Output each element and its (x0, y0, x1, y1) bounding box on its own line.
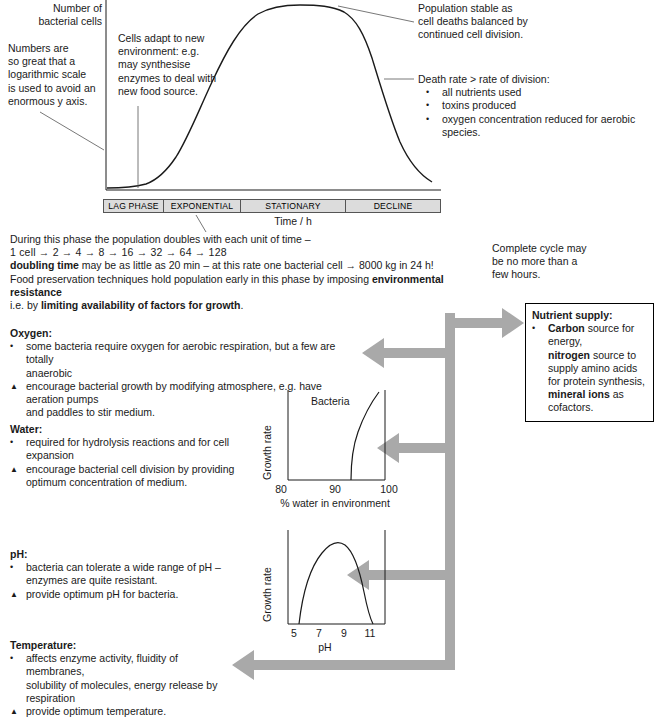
factor-ph: pH: • bacteria can tolerate a wide range… (10, 548, 235, 601)
nutrient-line-7: cofactors. (548, 401, 647, 414)
oxygen-heading: Oxygen: (10, 327, 360, 340)
water-chart-x-axis-label: % water in environment (265, 497, 405, 509)
oxygen-bullet-line-1: some bacteria require oxygen for aerobic… (26, 340, 360, 366)
water-action-line-1: encourage bacterial cell division by pro… (26, 463, 235, 476)
temperature-action-line-1: provide optimum temperature. (26, 705, 235, 718)
triangle-icon: ▲ (10, 463, 26, 489)
water-action-line-2: optimum concentration of medium. (26, 476, 235, 489)
factor-water: Water: • required for hydrolysis reactio… (10, 423, 235, 489)
arrow-to-nutrient-supply (450, 308, 524, 338)
ph-bullet-line-2: enzymes are quite resistant. (26, 574, 235, 587)
ph-chart-x-axis-label: pH (295, 641, 355, 653)
arrow-to-temperature (232, 650, 455, 680)
triangle-icon: ▲ (10, 380, 26, 420)
ph-heading: pH: (10, 548, 235, 561)
ph-chart-y-axis-label-text: Growth rate (261, 567, 273, 622)
water-chart-tick-90: 90 (325, 483, 345, 495)
water-chart-y-axis-label-text: Growth rate (261, 425, 273, 480)
water-bullet-line-2: expansion (26, 449, 235, 462)
water-chart-series-label: Bacteria (311, 395, 350, 408)
water-chart-tick-80: 80 (271, 483, 291, 495)
triangle-icon: ▲ (10, 705, 26, 718)
water-bullet-line-1: required for hydrolysis reactions and fo… (26, 436, 235, 449)
triangle-icon: ▲ (10, 588, 26, 601)
list-item: • bacteria can tolerate a wide range of … (10, 561, 235, 587)
list-item: • affects enzyme activity, fluidity of m… (10, 652, 235, 705)
ph-action-line-1: provide optimum pH for bacteria. (26, 588, 235, 601)
nutrient-carbon: Carbon (548, 322, 585, 334)
oxygen-bullet-line-2: anaerobic (26, 367, 360, 380)
bullet-icon: • (10, 436, 26, 462)
nutrient-supply-heading: Nutrient supply: (532, 309, 647, 322)
ph-chart-tick-7: 7 (313, 627, 325, 639)
temperature-bullet-line-1: affects enzyme activity, fluidity of mem… (26, 652, 235, 678)
list-item: ▲ provide optimum temperature. (10, 705, 235, 718)
ph-chart-tick-5: 5 (288, 627, 300, 639)
water-chart-tick-100: 100 (377, 483, 401, 495)
bullet-icon: • (532, 322, 548, 414)
bullet-icon: • (10, 340, 26, 380)
water-heading: Water: (10, 423, 235, 436)
nutrient-supply-box: Nutrient supply: • Carbon source for ene… (525, 303, 654, 422)
nutrient-line-2: energy, (548, 335, 647, 348)
list-item: ▲ provide optimum pH for bacteria. (10, 588, 235, 601)
list-item: • required for hydrolysis reactions and … (10, 436, 235, 462)
nutrient-nitrogen: nitrogen (548, 349, 590, 361)
nutrient-line-5: for protein synthesis, (548, 375, 647, 388)
nutrient-line-1: source for (585, 322, 635, 334)
temperature-bullet-line-3: respiration (26, 692, 235, 705)
water-growth-curve (351, 392, 379, 480)
list-item: ▲ encourage bacterial cell division by p… (10, 463, 235, 489)
ph-bullet-line-1: bacteria can tolerate a wide range of pH… (26, 561, 235, 574)
nutrient-line-3: source to (590, 349, 636, 361)
bullet-icon: • (10, 561, 26, 587)
list-item: • some bacteria require oxygen for aerob… (10, 340, 360, 380)
arrow-to-oxygen (362, 338, 450, 368)
list-item: • Carbon source for energy, nitrogen sou… (532, 322, 647, 414)
ph-chart-tick-11: 11 (362, 627, 378, 639)
factor-temperature: Temperature: • affects enzyme activity, … (10, 639, 235, 718)
ph-growth-curve (299, 543, 373, 624)
ph-chart-tick-9: 9 (338, 627, 350, 639)
temperature-heading: Temperature: (10, 639, 235, 652)
bullet-icon: • (10, 652, 26, 705)
nutrient-line-6: as (610, 388, 624, 400)
nutrient-line-4: supply amino acids (548, 362, 647, 375)
arrow-trunk-vertical (445, 313, 455, 665)
nutrient-mineral-ions: mineral ions (548, 388, 610, 400)
temperature-bullet-line-2: solubility of molecules, energy release … (26, 679, 235, 692)
